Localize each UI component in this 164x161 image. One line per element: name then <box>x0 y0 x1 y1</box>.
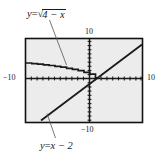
equation-label-linear: y=x − 2 <box>40 141 73 152</box>
equation-rhs-linear: x − 2 <box>51 140 73 151</box>
equation-radicand-sqrt: 4 − x <box>42 9 65 21</box>
tick-label-bottom: −10 <box>81 126 94 134</box>
tick-label-top: 10 <box>85 28 93 36</box>
graph-svg <box>0 0 164 161</box>
plot-background <box>26 39 143 123</box>
tick-label-left: −10 <box>3 74 16 82</box>
equation-label-sqrt: y=√4 − x <box>27 8 66 20</box>
tick-label-right: 10 <box>147 74 155 82</box>
graph-figure: y=√4 − x y=x − 2 10 10 −10 −10 <box>0 0 164 161</box>
